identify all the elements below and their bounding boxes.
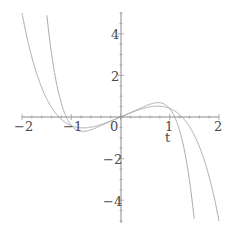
x-tick-label-2: 2 bbox=[214, 119, 222, 134]
plot-canvas: −2 −1 0 1 2 t 4 2 −2 −4 bbox=[0, 0, 236, 235]
y-tick-label-neg4: −4 bbox=[103, 194, 122, 209]
y-tick-label-neg2: −2 bbox=[103, 152, 122, 167]
y-tick-label-2: 2 bbox=[111, 69, 119, 84]
y-tick-label-4: 4 bbox=[111, 27, 119, 42]
x-tick-label-neg1: −1 bbox=[63, 119, 82, 134]
x-tick-label-0: 0 bbox=[110, 119, 118, 134]
x-tick-label-neg2: −2 bbox=[14, 119, 33, 134]
ticks-group bbox=[22, 13, 219, 221]
x-axis-label: t bbox=[165, 130, 171, 145]
